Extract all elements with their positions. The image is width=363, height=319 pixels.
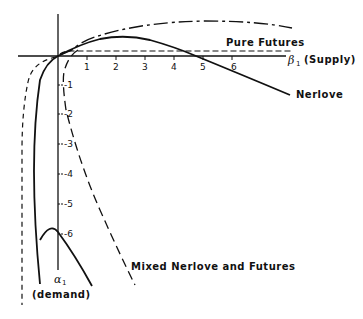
mixed-curve (63, 50, 135, 285)
y-tick-1: -1 (64, 80, 73, 90)
nerlove-curve (34, 37, 290, 284)
x-tick-1: 1 (84, 62, 90, 72)
x-tick-4: 4 (171, 62, 177, 72)
pure-futures-label: Pure Futures (226, 37, 305, 48)
x-tick-2: 2 (113, 62, 119, 72)
x-tick-3: 3 (142, 62, 148, 72)
x-tick-5: 5 (200, 62, 206, 72)
y-axis-subscript: 1 (62, 279, 66, 287)
y-tick-3: -3 (64, 139, 73, 149)
pure-futures-curve (60, 51, 292, 54)
x-axis-subscript: 1 (296, 60, 300, 68)
y-axis-label: (demand) (32, 289, 91, 300)
y-ticks (58, 85, 64, 234)
nerlove-label: Nerlove (296, 89, 343, 100)
mixed-label: Mixed Nerlove and Futures (131, 261, 295, 272)
y-tick-5: -5 (64, 199, 73, 209)
y-tick-6: -6 (64, 229, 73, 239)
x-axis-symbol: β (287, 54, 294, 67)
x-axis-label: (Supply) (304, 54, 356, 65)
diagram-canvas: 1 2 3 4 5 6 -1 -2 -3 -4 -5 -6 Pure Futur… (0, 0, 363, 319)
y-axis-symbol: α (54, 273, 62, 286)
y-tick-4: -4 (64, 169, 73, 179)
